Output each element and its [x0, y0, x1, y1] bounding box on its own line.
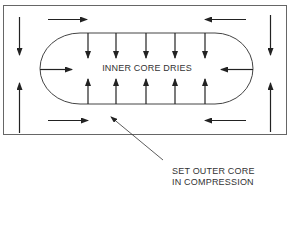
callout-line-1: SET OUTER CORE	[172, 166, 255, 177]
inner-up-arrows	[88, 79, 205, 104]
inner-down-arrows	[88, 33, 205, 58]
callout-label: SET OUTER CORE IN COMPRESSION	[172, 166, 255, 188]
callout-line-2: IN COMPRESSION	[172, 177, 255, 188]
callout-leader-line	[111, 117, 163, 160]
inner-core-label: INNER CORE DRIES	[0, 63, 290, 74]
